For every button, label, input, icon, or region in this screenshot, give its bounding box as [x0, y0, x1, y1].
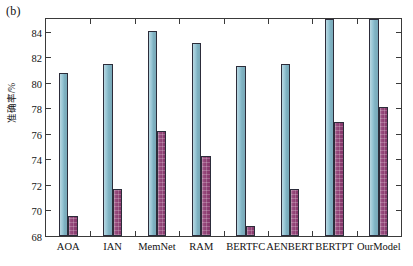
figure-panel-b: (b) 准确率/% 687072747678808284 AOAIANMemNe…	[0, 0, 413, 266]
plot-area: 687072747678808284 AOAIANMemNetRAMBERTFC…	[45, 18, 402, 237]
y-tick-78: 78	[46, 108, 51, 109]
y-tick-80: 80	[46, 83, 51, 84]
x-category-label-aoa: AOA	[57, 241, 80, 252]
y-tick-label-72: 72	[32, 180, 43, 191]
y-tick-84: 84	[46, 32, 51, 33]
x-tick-2	[179, 231, 180, 236]
y-tick-label-76: 76	[32, 129, 43, 140]
y-tick-label-68: 68	[32, 232, 43, 243]
y-tick-right-82	[396, 57, 401, 58]
bar-aoa-series-a	[59, 73, 68, 236]
y-tick-right-70	[396, 210, 401, 211]
y-tick-74: 74	[46, 159, 51, 160]
x-tick-4	[268, 231, 269, 236]
x-category-label-ram: RAM	[189, 241, 213, 252]
bar-memnet-series-a	[148, 31, 157, 237]
bar-memnet-series-b	[157, 131, 166, 236]
x-category-label-bertfc: BERTFC	[226, 241, 265, 252]
y-tick-right-80	[396, 83, 401, 84]
x-tick-1	[135, 231, 136, 236]
bar-bertpt-series-b	[334, 122, 343, 236]
y-tick-68: 68	[46, 236, 51, 237]
y-tick-label-78: 78	[32, 104, 43, 115]
y-tick-right-76	[396, 134, 401, 135]
y-tick-82: 82	[46, 57, 51, 58]
y-tick-label-74: 74	[32, 155, 43, 166]
x-category-label-aenbert: AENBERT	[266, 241, 314, 252]
x-tick-6	[357, 231, 358, 236]
x-category-label-ourmodel: OurModel	[357, 241, 401, 252]
y-tick-label-70: 70	[32, 206, 43, 217]
y-tick-label-84: 84	[32, 27, 43, 38]
x-tick-top-2	[179, 19, 180, 24]
bar-ourmodel-series-b	[379, 107, 388, 236]
y-tick-right-84	[396, 32, 401, 33]
bar-ram-series-b	[201, 156, 210, 236]
x-tick-top-6	[357, 19, 358, 24]
y-tick-right-78	[396, 108, 401, 109]
x-tick-3	[224, 231, 225, 236]
bar-ian-series-b	[113, 189, 122, 236]
bar-aenbert-series-b	[290, 189, 299, 236]
x-tick-0	[90, 231, 91, 236]
bar-aoa-series-b	[68, 216, 77, 236]
bar-bertfc-series-a	[236, 66, 245, 236]
bar-ourmodel-series-a	[369, 19, 378, 236]
y-tick-right-74	[396, 159, 401, 160]
y-tick-right-68	[396, 236, 401, 237]
x-tick-5	[312, 231, 313, 236]
y-tick-label-82: 82	[32, 53, 43, 64]
panel-tag: (b)	[6, 4, 21, 19]
y-tick-70: 70	[46, 210, 51, 211]
x-category-label-bertpt: BERTPT	[315, 241, 353, 252]
x-category-label-ian: IAN	[103, 241, 122, 252]
bar-aenbert-series-a	[281, 64, 290, 236]
bar-bertfc-series-b	[246, 226, 255, 236]
y-tick-right-72	[396, 185, 401, 186]
x-tick-top-5	[312, 19, 313, 24]
y-tick-76: 76	[46, 134, 51, 135]
y-axis-title: 准确率/%	[4, 48, 18, 158]
y-tick-72: 72	[46, 185, 51, 186]
x-category-label-memnet: MemNet	[138, 241, 175, 252]
bar-ian-series-a	[103, 64, 112, 236]
y-tick-label-80: 80	[32, 78, 43, 89]
x-tick-top-3	[224, 19, 225, 24]
bar-ram-series-a	[192, 43, 201, 236]
x-tick-top-0	[90, 19, 91, 24]
x-tick-top-4	[268, 19, 269, 24]
x-tick-top-1	[135, 19, 136, 24]
bar-bertpt-series-a	[325, 19, 334, 236]
